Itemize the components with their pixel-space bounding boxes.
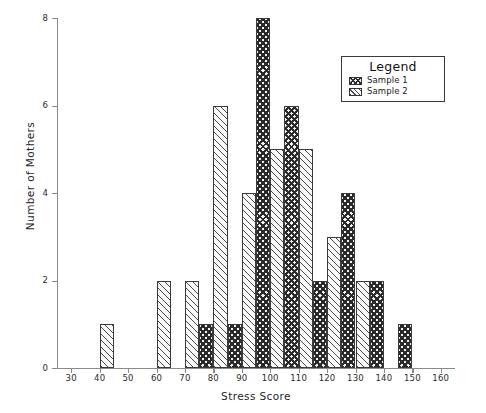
legend-title: Legend (342, 60, 444, 74)
bar (256, 18, 270, 368)
bar (370, 281, 384, 369)
y-tick-label-4: 4 (34, 189, 48, 198)
y-axis-title: Number of Mothers (24, 106, 36, 246)
x-tick-label-140: 140 (371, 374, 397, 383)
x-tick-label-30: 30 (58, 374, 84, 383)
legend-entry-label: Sample 1 (367, 76, 408, 85)
x-tick-label-40: 40 (87, 374, 113, 383)
bar (242, 193, 256, 368)
bar (299, 149, 313, 368)
bar (341, 193, 355, 368)
x-tick-label-70: 70 (172, 374, 198, 383)
legend-entry: Sample 1 (342, 75, 444, 86)
bar (100, 324, 114, 368)
y-tick-label-2: 2 (34, 276, 48, 285)
bar (270, 149, 284, 368)
legend-entries: Sample 1Sample 2 (342, 75, 444, 97)
bar (284, 106, 298, 369)
x-tick-label-80: 80 (200, 374, 226, 383)
y-tick-label-6: 6 (34, 101, 48, 110)
bar (185, 281, 199, 369)
bar (398, 324, 412, 368)
x-tick-label-110: 110 (286, 374, 312, 383)
legend-entry: Sample 2 (342, 86, 444, 97)
legend-entry-label: Sample 2 (367, 87, 408, 96)
diagonal-hatch-swatch-icon (349, 88, 362, 96)
bar (157, 281, 171, 369)
x-tick-label-50: 50 (115, 374, 141, 383)
bar (356, 281, 370, 369)
x-tick-label-160: 160 (428, 374, 454, 383)
y-tick-0 (52, 368, 57, 369)
legend: Legend Sample 1Sample 2 (341, 56, 445, 102)
y-tick-label-0: 0 (34, 364, 48, 373)
x-tick-label-60: 60 (144, 374, 170, 383)
x-tick-label-100: 100 (257, 374, 283, 383)
x-tick-label-90: 90 (229, 374, 255, 383)
histogram-chart: Number of Mothers 02468 3040506070809010… (0, 0, 486, 413)
x-tick-label-120: 120 (314, 374, 340, 383)
y-tick-label-8: 8 (34, 14, 48, 23)
bar (327, 237, 341, 368)
x-tick-label-150: 150 (399, 374, 425, 383)
bar (228, 324, 242, 368)
bar (313, 281, 327, 369)
cross-hatch-swatch-icon (349, 77, 362, 85)
x-tick-label-130: 130 (343, 374, 369, 383)
bar (199, 324, 213, 368)
bar (213, 106, 227, 369)
x-axis-title: Stress Score (57, 390, 455, 402)
